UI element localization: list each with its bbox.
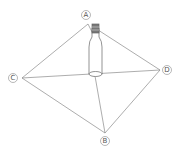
label-d: D bbox=[163, 66, 172, 75]
svg-text:A: A bbox=[84, 11, 89, 19]
label-c: C bbox=[9, 74, 18, 83]
svg-text:D: D bbox=[164, 66, 169, 74]
bottle-icon bbox=[89, 24, 102, 77]
bottle-diagram: A B C D bbox=[0, 0, 182, 162]
label-a: A bbox=[82, 11, 91, 20]
svg-text:B: B bbox=[103, 137, 108, 145]
svg-text:C: C bbox=[11, 74, 16, 82]
label-b: B bbox=[101, 137, 110, 146]
point-labels: A B C D bbox=[9, 11, 172, 146]
diagram: A B C D bbox=[0, 0, 182, 162]
